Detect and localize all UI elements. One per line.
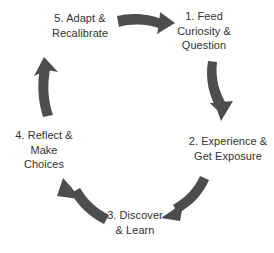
stage-label-4: 4. Reflect & Make Choices — [6, 128, 82, 172]
stage-label-1: 1. Feed Curiosity & Question — [168, 9, 240, 53]
arrow-5-to-1 — [117, 12, 175, 34]
stage-label-2: 2. Experience & Get Exposure — [184, 134, 272, 163]
arrow-1-to-2 — [207, 61, 233, 121]
stage-label-3: 3. Discover & Learn — [98, 208, 172, 237]
cycle-diagram: 1. Feed Curiosity & Question 2. Experien… — [0, 0, 274, 253]
stage-label-5: 5. Adapt & Recalibrate — [38, 11, 122, 40]
arrow-4-to-5 — [34, 57, 58, 117]
